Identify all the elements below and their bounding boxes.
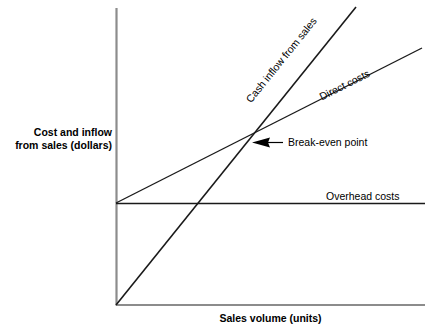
break-even-chart: Cost and inflow from sales (dollars) Sal… (0, 0, 429, 335)
annotation-label-break-even-point: Break-even point (288, 136, 367, 148)
series-label-overhead-costs: Overhead costs (326, 190, 400, 202)
y-axis-title: Cost and inflow from sales (dollars) (4, 126, 112, 152)
x-axis-title: Sales volume (units) (116, 312, 425, 325)
cash-inflow-line (116, 7, 356, 305)
plot-area (0, 0, 429, 335)
break-even-arrowhead-icon (252, 138, 270, 148)
